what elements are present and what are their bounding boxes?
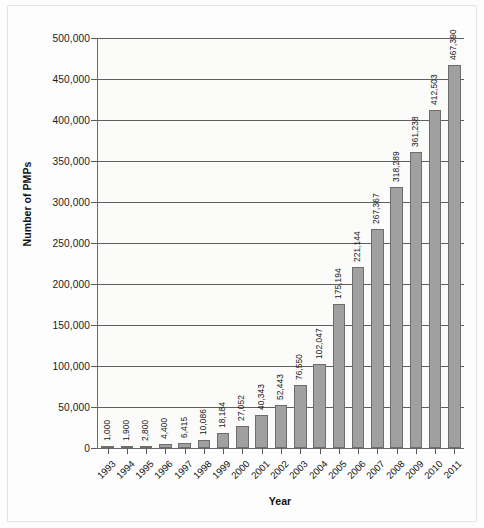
x-axis-title: Year [97,495,463,507]
x-axis-tick-mark [262,448,263,454]
y-axis-tick-mark [91,325,97,326]
bar: 412,503 [429,110,442,448]
bar: 18,184 [217,433,230,448]
y-axis-tick-mark [91,38,97,39]
bar-value-label: 1,000 [102,420,112,441]
bar-value-label: 76,550 [294,354,304,380]
x-axis-tick-mark [358,448,359,454]
bar: 27,052 [236,426,249,448]
x-axis-tick-mark [127,448,128,454]
bar: 318,289 [390,187,403,448]
bar: 40,343 [255,415,268,448]
bar: 102,047 [313,364,326,448]
bar: 221,144 [352,267,365,448]
bar: 175,194 [333,304,346,448]
bar-value-label: 361,238 [410,116,420,147]
x-axis-tick-mark [320,448,321,454]
bar-value-label: 1,900 [121,420,131,441]
bar-value-label: 18,184 [217,402,227,428]
y-axis-tick-label: 150,000 [6,320,90,331]
x-axis-tick-mark [339,448,340,454]
y-axis-tick-label: 250,000 [6,238,90,249]
y-axis-tick-label: 50,000 [6,402,90,413]
gridline [98,38,464,39]
bar-value-label: 412,503 [429,74,439,105]
y-axis-tick-labels: 050,000100,000150,000200,000250,000300,0… [0,38,90,448]
bar-value-label: 52,443 [275,374,285,400]
x-axis-tick-mark [146,448,147,454]
gridline [98,120,464,121]
bar: 361,238 [410,152,423,448]
x-axis-tick-mark [223,448,224,454]
bar-value-label: 318,289 [391,151,401,182]
y-axis-tick-mark [91,448,97,449]
x-axis-tick-mark [454,448,455,454]
y-axis-tick-mark [91,161,97,162]
bar-value-label: 175,194 [333,269,343,300]
x-axis-tick-mark [281,448,282,454]
bar: 52,443 [275,405,288,448]
bar-chart-figure: Number of PMPs 050,000100,000150,000200,… [0,0,484,528]
bar: 467,390 [448,65,461,448]
y-axis-tick-label: 300,000 [6,197,90,208]
y-axis-tick-mark [91,407,97,408]
y-axis-tick-mark [91,366,97,367]
y-axis-tick-mark [91,243,97,244]
y-axis-tick-mark [91,202,97,203]
bar: 267,367 [371,229,384,448]
bar-value-label: 2,800 [140,420,150,441]
x-axis-tick-mark [397,448,398,454]
y-axis-tick-label: 400,000 [6,115,90,126]
x-axis-tick-mark [435,448,436,454]
gridline [98,79,464,80]
bar-value-label: 40,343 [256,384,266,410]
bar: 76,550 [294,385,307,448]
bar-value-label: 102,047 [314,329,324,360]
y-axis-tick-label: 100,000 [6,361,90,372]
x-axis-tick-mark [300,448,301,454]
x-axis-tick-mark [242,448,243,454]
y-axis-tick-label: 0 [6,443,90,454]
y-axis-tick-label: 500,000 [6,33,90,44]
x-axis-tick-mark [165,448,166,454]
x-axis-tick-mark [204,448,205,454]
x-axis-tick-mark [377,448,378,454]
bar-value-label: 10,086 [198,409,208,435]
y-axis-tick-label: 350,000 [6,156,90,167]
bar-value-label: 4,400 [160,418,170,439]
bar: 10,086 [198,440,211,448]
x-axis-tick-mark [416,448,417,454]
bar-value-label: 467,390 [449,29,459,60]
y-axis-tick-label: 450,000 [6,74,90,85]
bar-value-label: 6,415 [179,417,189,438]
bar-value-label: 221,144 [352,231,362,262]
y-axis-tick-mark [91,284,97,285]
x-axis-tick-mark [185,448,186,454]
y-axis-tick-mark [91,79,97,80]
x-axis-tick-mark [108,448,109,454]
y-axis-tick-mark [91,120,97,121]
y-axis-tick-label: 200,000 [6,279,90,290]
bar-value-label: 267,367 [372,193,382,224]
plot-area: 1,0001,9002,8004,4006,41510,08618,18427,… [97,38,464,449]
bar-value-label: 27,052 [237,395,247,421]
